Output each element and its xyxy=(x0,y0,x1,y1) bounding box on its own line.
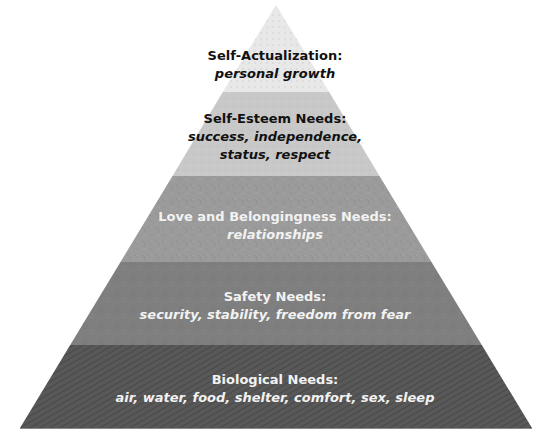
layer-description-line-2: status, respect xyxy=(0,146,550,164)
layer-description: security, stability, freedom from fear xyxy=(0,306,550,324)
layer-title: Self-Actualization: xyxy=(0,47,550,65)
layer-description-line-1: success, independence, xyxy=(0,128,550,146)
layer-title: Love and Belongingness Needs: xyxy=(0,208,550,226)
label-self-actualization: Self-Actualization: personal growth xyxy=(0,47,550,83)
layer-title: Biological Needs: xyxy=(0,371,550,389)
label-biological: Biological Needs: air, water, food, shel… xyxy=(0,371,550,407)
layer-description: relationships xyxy=(0,226,550,244)
label-self-esteem: Self-Esteem Needs: success, independence… xyxy=(0,110,550,164)
layer-description: air, water, food, shelter, comfort, sex,… xyxy=(0,389,550,407)
label-safety: Safety Needs: security, stability, freed… xyxy=(0,288,550,324)
layer-description: personal growth xyxy=(0,65,550,83)
layer-title: Safety Needs: xyxy=(0,288,550,306)
label-love-belonging: Love and Belongingness Needs: relationsh… xyxy=(0,208,550,244)
layer-title: Self-Esteem Needs: xyxy=(0,110,550,128)
